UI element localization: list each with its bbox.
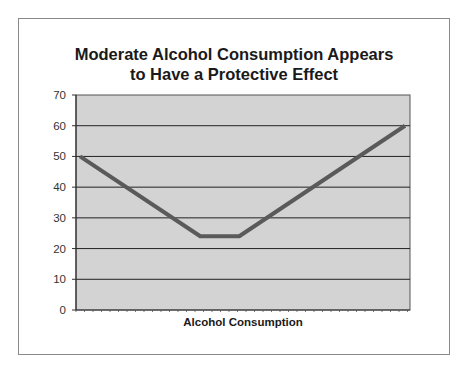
x-axis-label: Alcohol Consumption	[76, 316, 410, 328]
y-tick-label: 50	[53, 150, 66, 162]
y-tick-label: 40	[53, 181, 66, 193]
plot-area	[76, 95, 410, 310]
y-tick-label: 20	[53, 243, 66, 255]
y-tick-label: 60	[53, 120, 66, 132]
y-tick-label: 0	[60, 304, 66, 316]
y-tick-label: 10	[53, 273, 66, 285]
y-tick-label: 30	[53, 212, 66, 224]
y-tick-label: 70	[53, 89, 66, 101]
